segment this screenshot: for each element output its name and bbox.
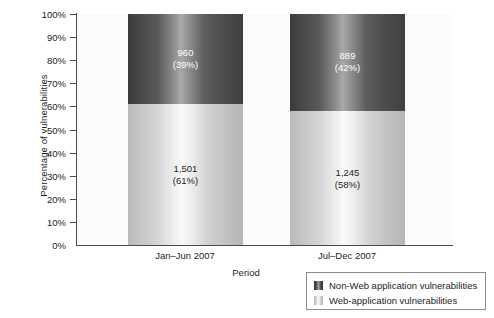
- bar-segment-non-web[interactable]: 960 (39%): [128, 14, 243, 104]
- y-tick-label-80: 80%: [4, 55, 66, 66]
- bar-label-percent: (39%): [128, 59, 243, 71]
- legend-swatch-icon: [314, 296, 323, 305]
- chart-legend: Non-Web application vulnerabilities Web-…: [306, 272, 486, 310]
- y-axis-line: [76, 13, 77, 246]
- bar-jan-jun-2007[interactable]: 960 (39%) 1,501 (61%): [128, 14, 243, 245]
- bar-label-count: 960: [128, 47, 243, 59]
- y-tick-label-70: 70%: [4, 78, 66, 89]
- bar-segment-web[interactable]: 1,245 (58%): [290, 111, 405, 245]
- legend-item-web[interactable]: Web-application vulnerabilities: [314, 293, 479, 307]
- y-tick-label-30: 30%: [4, 171, 66, 182]
- bar-label-percent: (61%): [128, 175, 243, 187]
- y-tick-label-40: 40%: [4, 148, 66, 159]
- legend-item-label: Non-Web application vulnerabilities: [329, 280, 477, 291]
- legend-item-non-web[interactable]: Non-Web application vulnerabilities: [314, 278, 479, 292]
- legend-swatch-icon: [314, 281, 323, 290]
- bar-label-count: 889: [290, 50, 405, 62]
- y-tick-label-20: 20%: [4, 194, 66, 205]
- x-axis-title: Period: [186, 267, 306, 278]
- chart-figure: Percentage of vulnerabilities 100% 90% 8…: [0, 0, 494, 318]
- y-tick-label-60: 60%: [4, 101, 66, 112]
- bar-label-count: 1,501: [128, 163, 243, 175]
- bar-label-percent: (58%): [290, 179, 405, 191]
- y-tick-label-100: 100%: [4, 9, 66, 20]
- bar-segment-web[interactable]: 1,501 (61%): [128, 104, 243, 245]
- bar-label-percent: (42%): [290, 62, 405, 74]
- x-axis-line: [76, 245, 453, 246]
- bar-label-count: 1,245: [290, 167, 405, 179]
- bar-segment-non-web[interactable]: 889 (42%): [290, 14, 405, 111]
- x-tick-label-jul-dec-2007: Jul–Dec 2007: [267, 250, 427, 261]
- y-tick-label-90: 90%: [4, 32, 66, 43]
- bar-jul-dec-2007[interactable]: 889 (42%) 1,245 (58%): [290, 14, 405, 245]
- y-tick-label-0: 0%: [4, 240, 66, 251]
- legend-item-label: Web-application vulnerabilities: [329, 295, 457, 306]
- y-tick-label-50: 50%: [4, 125, 66, 136]
- x-tick-label-jan-jun-2007: Jan–Jun 2007: [105, 250, 265, 261]
- y-tick-label-10: 10%: [4, 217, 66, 228]
